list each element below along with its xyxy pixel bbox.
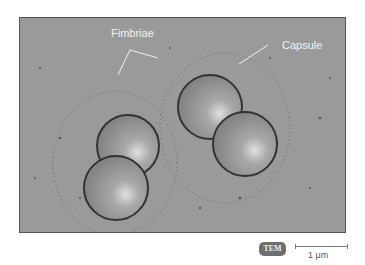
tem-badge: TEM — [259, 242, 286, 256]
scale-bar-label: 1 μm — [308, 250, 328, 260]
micrograph-illustration: Fimbriae Capsule — [19, 17, 346, 233]
capsule-label: Capsule — [282, 39, 322, 51]
fimbriae-label: Fimbriae — [111, 27, 154, 39]
scale-bar — [295, 244, 348, 249]
